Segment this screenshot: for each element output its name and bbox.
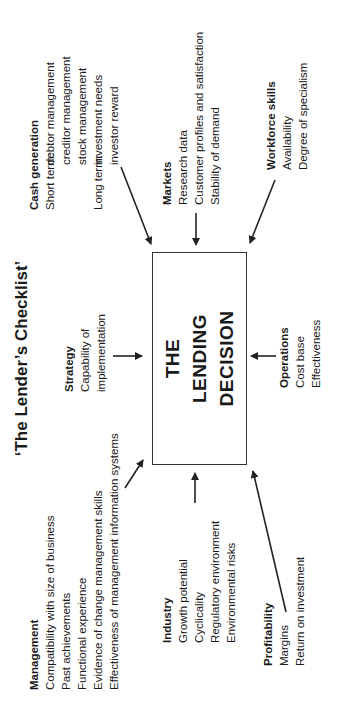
management-block: Management Compatibility with size of bu… [26,433,122,690]
profitability-item: Return on investment [292,557,308,666]
markets-block: Markets Research data Customer profiles … [159,32,223,205]
operations-block: Operations Cost base Effectiveness [276,320,324,388]
long-term-label: Long term: [90,165,122,210]
long-term-row: Long term: investment needs investor rew… [90,56,122,210]
industry-item: Regulatory environment [207,521,223,643]
operations-heading: Operations [276,320,292,388]
long-term-item: investment needs [90,75,106,165]
strategy-item: implementation [93,314,109,392]
operations-item: Cost base [292,320,308,388]
workforce-skills-heading: Workforce skills [263,63,279,170]
management-heading: Management [26,433,42,690]
management-item: Past achievements [58,433,74,690]
strategy-heading: Strategy [61,314,77,392]
short-term-label: Short term: [42,165,90,210]
operations-item: Effectiveness [308,320,324,388]
short-term-row: Short term: debtor management creditor m… [42,56,90,210]
markets-item: Stability of demand [207,32,223,205]
industry-item: Cyclicality [191,521,207,643]
workforce-skills-item: Degree of specialism [295,63,311,170]
arrow-management [125,460,143,488]
cash-generation-heading: Cash generation [26,56,42,210]
lenders-checklist-diagram: ‘The Lender’s Checklist’ THE LENDING DEC… [0,0,343,709]
management-item: Effectiveness of management information … [106,433,122,690]
profitability-heading: Profitability [260,557,276,666]
arrow-cash-generation [121,167,151,244]
industry-item: Growth potential [175,521,191,643]
markets-item: Research data [175,32,191,205]
workforce-skills-block: Workforce skills Availability Degree of … [263,63,311,170]
markets-heading: Markets [159,32,175,205]
short-term-item: creditor management [58,56,74,165]
industry-item: Environmental risks [223,521,239,643]
profitability-block: Profitability Margins Return on investme… [260,557,308,666]
management-item: Compatibility with size of business [42,433,58,690]
long-term-item: investor reward [106,75,122,165]
strategy-item: Capability of [77,314,93,392]
arrow-workforce-skills [250,180,275,243]
box-line-1: THE [159,339,186,379]
cash-generation-block: Cash generation Short term: debtor manag… [26,56,122,210]
profitability-item: Margins [276,557,292,666]
workforce-skills-item: Availability [279,63,295,170]
management-item: Functional experience [74,433,90,690]
short-term-item: debtor management [42,56,58,165]
industry-block: Industry Growth potential Cyclicality Re… [159,521,239,643]
box-line-3: DECISION [213,311,240,407]
lending-decision-box: THE LENDING DECISION [152,252,247,465]
markets-item: Customer profiles and satisfaction [191,32,207,205]
management-item: Evidence of change management skills [90,433,106,690]
short-term-item: stock management [74,56,90,165]
industry-heading: Industry [159,521,175,643]
strategy-block: Strategy Capability of implementation [61,314,109,392]
box-line-2: LENDING [186,314,213,403]
